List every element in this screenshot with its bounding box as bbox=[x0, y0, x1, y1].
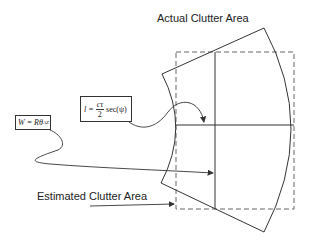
actual-clutter-label: Actual Clutter Area bbox=[157, 12, 249, 24]
width-formula-box: W = RθAZ bbox=[15, 115, 51, 130]
width-formula-subscript: AZ bbox=[43, 120, 49, 125]
estimated-clutter-rect bbox=[176, 52, 294, 209]
length-formula-rhs: sec(ψ) bbox=[106, 105, 127, 114]
width-arrow bbox=[35, 130, 213, 173]
length-formula-denominator: 2 bbox=[98, 110, 102, 119]
estimated-arrow bbox=[90, 204, 174, 206]
estimated-clutter-label: Estimated Clutter Area bbox=[37, 190, 147, 202]
length-formula-box: l = cτ 2 sec(ψ) bbox=[80, 96, 132, 122]
length-formula-numerator: cτ bbox=[96, 100, 104, 110]
length-formula-fraction: cτ 2 bbox=[96, 100, 104, 119]
length-arrow bbox=[129, 102, 204, 127]
actual-clutter-sector bbox=[161, 28, 291, 232]
width-formula-text: W = Rθ bbox=[18, 118, 43, 127]
length-formula-lhs: l = bbox=[84, 105, 94, 114]
